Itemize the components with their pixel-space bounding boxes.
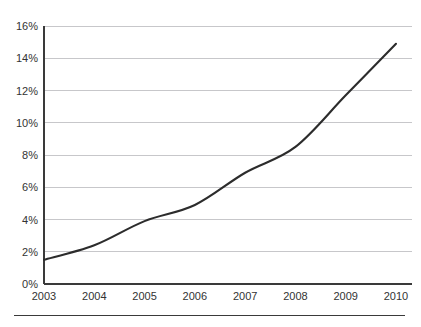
y-axis-tick-label: 8% [22,149,38,161]
x-axis-tick-label: 2008 [283,290,307,302]
x-axis-tick-label: 2003 [32,290,56,302]
x-axis-labels-group: 20032004200520062007200820092010 [32,290,408,302]
x-axis-tick-label: 2005 [132,290,156,302]
line-chart-svg: 16%14%12%10%8%6%4%2%0% 20032004200520062… [0,0,421,310]
gridlines-group [44,26,412,252]
y-axis-tick-label: 16% [16,20,38,32]
y-axis-labels-group: 16%14%12%10%8%6%4%2%0% [16,20,38,290]
data-series-line [44,44,396,260]
x-axis-tick-label: 2009 [333,290,357,302]
footer-divider [14,315,405,316]
x-axis-tick-label: 2004 [82,290,106,302]
y-axis-tick-label: 4% [22,214,38,226]
y-axis-tick-label: 12% [16,85,38,97]
y-axis-tick-label: 2% [22,246,38,258]
y-axis-tick-label: 6% [22,181,38,193]
plot-area: 16%14%12%10%8%6%4%2%0% 20032004200520062… [0,0,421,310]
y-axis-tick-label: 14% [16,52,38,64]
x-axis-tick-label: 2006 [183,290,207,302]
chart-figure: 16%14%12%10%8%6%4%2%0% 20032004200520062… [0,0,421,327]
x-axis-tick-label: 2007 [233,290,257,302]
y-axis-tick-label: 0% [22,278,38,290]
y-axis-tick-label: 10% [16,117,38,129]
x-axis-tick-label: 2010 [384,290,408,302]
